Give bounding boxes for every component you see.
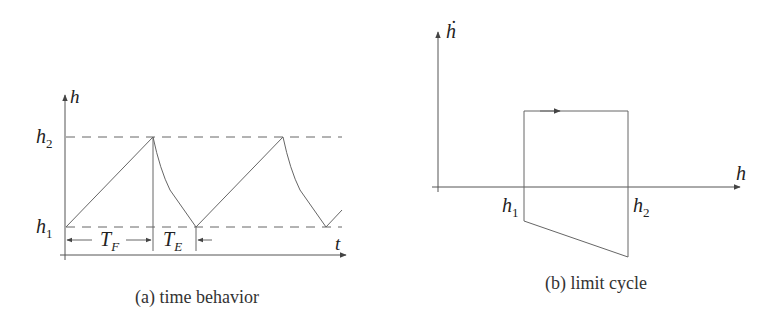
- time-behavior-caption: (a) time behavior: [135, 287, 259, 308]
- level-waveform: [66, 137, 342, 227]
- te-label: TE: [163, 228, 182, 254]
- time-behavior-panel: h t h2 h1 TF TE (a) time behavior: [36, 86, 346, 308]
- tf-label: TF: [100, 228, 120, 254]
- h-dot-axis-label: ḣ: [446, 20, 456, 42]
- h1-label: h1: [36, 215, 53, 241]
- limit-cycle-caption: (b) limit cycle: [545, 273, 647, 294]
- h-axis-label: h: [70, 86, 80, 107]
- figure-canvas: h t h2 h1 TF TE (a) time behavior ḣ h h1…: [0, 0, 773, 318]
- t-axis-label: t: [335, 233, 341, 254]
- limit-cycle-panel: ḣ h h1 h2 (b) limit cycle: [432, 20, 746, 294]
- h2-label: h2: [36, 125, 53, 151]
- limit-cycle-trajectory: [524, 111, 628, 257]
- h1-tick-label: h1: [502, 194, 519, 220]
- h2-tick-label: h2: [633, 194, 650, 220]
- h-axis-b-label: h: [736, 162, 746, 184]
